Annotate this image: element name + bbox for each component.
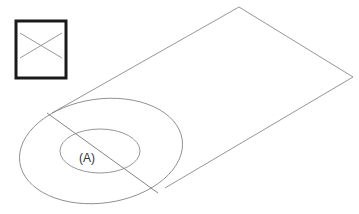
outer-ellipse (13, 88, 190, 214)
cylinder-outline (52, 7, 353, 188)
diameter-line (47, 113, 158, 193)
cylinder-diagram: (A) (0, 0, 359, 214)
region-label: (A) (79, 151, 95, 165)
crossed-box-icon (16, 21, 66, 78)
